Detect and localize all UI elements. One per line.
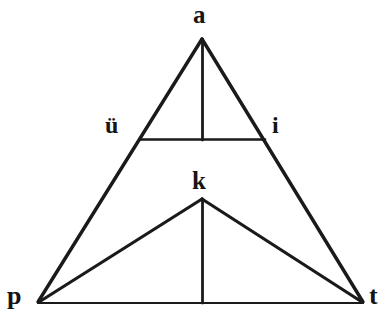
vertex-label-t: t — [369, 283, 378, 309]
edge-a-p — [38, 39, 202, 302]
diagram-canvas — [0, 0, 390, 319]
edge-k-t — [202, 199, 362, 302]
edge-a-t — [202, 39, 363, 302]
triangle-diagram-figure: a ü i k p t — [0, 0, 390, 319]
vertex-label-k: k — [192, 168, 206, 193]
vertex-label-i: i — [272, 113, 279, 137]
vertex-label-u-umlaut: ü — [105, 113, 118, 137]
edge-p-k — [39, 199, 202, 302]
vertex-label-p: p — [7, 283, 21, 309]
vertex-label-a: a — [193, 2, 206, 27]
